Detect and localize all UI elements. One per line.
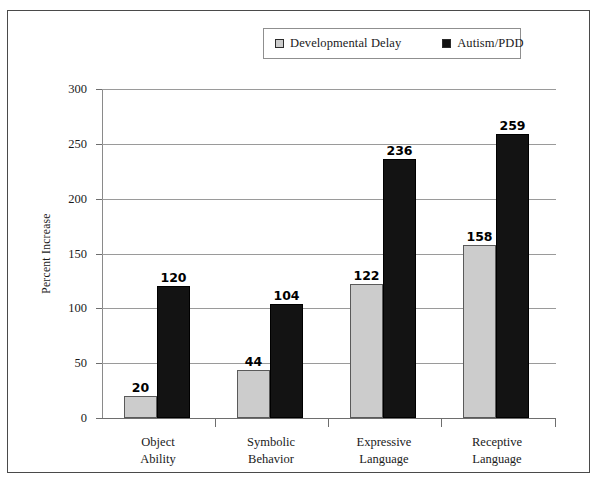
x-tick-2 bbox=[328, 418, 329, 427]
x-category-line-1: Symbolic bbox=[247, 434, 295, 451]
y-tick-200: 200 bbox=[96, 199, 102, 200]
y-tick-50: 50 bbox=[96, 363, 102, 364]
x-category-line-1: Receptive bbox=[472, 434, 522, 451]
x-category-line-2: Behavior bbox=[247, 451, 295, 468]
bar-developmental-delay-receptive-language[interactable]: 158 bbox=[463, 245, 496, 418]
y-tick-label-250: 250 bbox=[68, 136, 87, 151]
bar-value-developmental-delay-expressive-language: 122 bbox=[353, 268, 379, 283]
x-category-label-expressive-language: Expressive Language bbox=[357, 434, 412, 467]
x-category-line-2: Ability bbox=[140, 451, 175, 468]
y-tick-label-300: 300 bbox=[68, 82, 87, 97]
x-tick-3 bbox=[441, 418, 442, 427]
x-category-line-2: Language bbox=[472, 451, 522, 468]
y-tick-label-150: 150 bbox=[68, 246, 87, 261]
legend-swatch-developmental-delay bbox=[275, 39, 284, 48]
bar-value-developmental-delay-symbolic-behavior: 44 bbox=[245, 354, 262, 369]
chart-legend: Developmental Delay Autism/PDD bbox=[263, 28, 521, 59]
legend-entry-developmental-delay: Developmental Delay bbox=[275, 36, 401, 51]
y-tick-label-200: 200 bbox=[68, 191, 87, 206]
bar-developmental-delay-expressive-language[interactable]: 122 bbox=[350, 284, 383, 418]
y-tick-0: 0 bbox=[96, 418, 102, 419]
bar-value-autism-pdd-receptive-language: 259 bbox=[499, 118, 525, 133]
legend-entry-autism-pdd: Autism/PDD bbox=[442, 36, 523, 51]
bar-value-developmental-delay-object-ability: 20 bbox=[132, 380, 149, 395]
y-tick-100: 100 bbox=[96, 308, 102, 309]
y-axis-title: Percent Increase bbox=[38, 89, 54, 418]
legend-label-developmental-delay: Developmental Delay bbox=[290, 36, 401, 51]
gridline-250 bbox=[102, 144, 556, 145]
y-tick-250: 250 bbox=[96, 144, 102, 145]
legend-swatch-autism-pdd bbox=[442, 39, 451, 48]
y-tick-label-50: 50 bbox=[75, 356, 88, 371]
bar-autism-pdd-object-ability[interactable]: 120 bbox=[157, 286, 190, 418]
plot-area: 300 250 200 150 100 50 0 bbox=[102, 89, 556, 418]
x-category-label-object-ability: Object Ability bbox=[140, 434, 175, 467]
bar-developmental-delay-object-ability[interactable]: 20 bbox=[124, 396, 157, 418]
bar-value-autism-pdd-object-ability: 120 bbox=[160, 270, 186, 285]
bar-autism-pdd-symbolic-behavior[interactable]: 104 bbox=[270, 304, 303, 418]
bar-developmental-delay-symbolic-behavior[interactable]: 44 bbox=[237, 370, 270, 418]
chart-figure: Developmental Delay Autism/PDD Percent I… bbox=[7, 10, 590, 473]
y-tick-label-0: 0 bbox=[81, 411, 87, 426]
legend-label-autism-pdd: Autism/PDD bbox=[457, 36, 523, 51]
bar-value-autism-pdd-symbolic-behavior: 104 bbox=[273, 288, 299, 303]
bar-value-autism-pdd-expressive-language: 236 bbox=[386, 143, 412, 158]
bar-value-developmental-delay-receptive-language: 158 bbox=[466, 229, 492, 244]
y-tick-150: 150 bbox=[96, 254, 102, 255]
x-tick-4 bbox=[555, 418, 556, 427]
x-tick-1 bbox=[215, 418, 216, 427]
y-tick-300: 300 bbox=[96, 89, 102, 90]
gridline-200 bbox=[102, 199, 556, 200]
x-axis-line bbox=[102, 418, 556, 419]
bar-autism-pdd-receptive-language[interactable]: 259 bbox=[496, 134, 529, 418]
x-category-label-receptive-language: Receptive Language bbox=[472, 434, 522, 467]
bar-autism-pdd-expressive-language[interactable]: 236 bbox=[383, 159, 416, 418]
x-category-line-1: Object bbox=[140, 434, 175, 451]
x-category-line-2: Language bbox=[357, 451, 412, 468]
x-category-line-1: Expressive bbox=[357, 434, 412, 451]
y-tick-label-100: 100 bbox=[68, 301, 87, 316]
gridline-300 bbox=[102, 89, 556, 90]
x-category-label-symbolic-behavior: Symbolic Behavior bbox=[247, 434, 295, 467]
